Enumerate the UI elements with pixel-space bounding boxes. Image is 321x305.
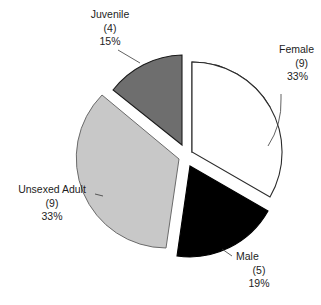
pie-label-unsexed-adult-count: (9)	[2, 197, 102, 211]
pie-label-unsexed-adult-name: Unsexed Adult	[2, 183, 102, 197]
pie-label-juvenile-count: (4)	[72, 22, 148, 36]
pie-label-juvenile: Juvenile (4) 15%	[72, 8, 148, 49]
pie-label-female: Female (9) 33%	[218, 43, 314, 84]
pie-label-male-count: (5)	[228, 264, 290, 278]
leader-line-juvenile	[118, 50, 140, 63]
pie-label-juvenile-name: Juvenile	[72, 8, 148, 22]
pie-label-male: Male (5) 19%	[228, 250, 290, 291]
pie-label-male-percent: 19%	[228, 277, 290, 291]
pie-label-juvenile-percent: 15%	[72, 35, 148, 49]
pie-label-unsexed-adult: Unsexed Adult (9) 33%	[2, 183, 102, 224]
pie-label-male-name: Male	[228, 250, 290, 264]
pie-label-female-percent: 33%	[218, 70, 314, 84]
pie-label-female-count: (9)	[218, 57, 314, 71]
pie-chart-figure: Juvenile (4) 15% Female (9) 33% Unsexed …	[0, 0, 321, 305]
pie-label-female-name: Female	[218, 43, 314, 57]
pie-label-unsexed-adult-percent: 33%	[2, 210, 102, 224]
